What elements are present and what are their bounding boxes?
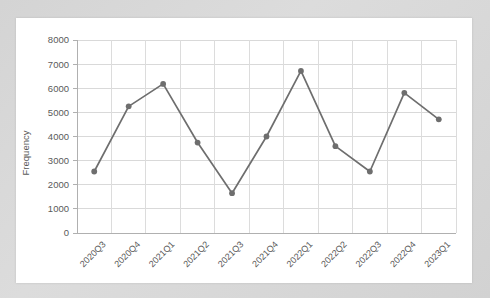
chart-panel: 010002000300040005000600070008000 2020Q3…	[16, 18, 472, 283]
x-tick-label: 2021Q3	[216, 239, 246, 269]
data-point-marker	[436, 116, 442, 122]
x-tick-label: 2020Q3	[78, 239, 108, 269]
x-tick-label: 2023Q1	[422, 239, 452, 269]
data-point-marker	[298, 68, 304, 74]
y-axis-tick-labels: 010002000300040005000600070008000	[48, 34, 69, 238]
y-tick-label: 1000	[48, 203, 69, 214]
x-axis-tick-labels: 2020Q32020Q42021Q12021Q22021Q32021Q42022…	[78, 239, 452, 269]
data-point-marker	[195, 140, 201, 146]
y-tick-label: 0	[64, 227, 69, 238]
x-tick-label: 2022Q2	[319, 239, 349, 269]
x-tick-label: 2022Q1	[285, 239, 315, 269]
y-tick-label: 8000	[48, 34, 69, 45]
y-axis-title: Frequency	[20, 130, 31, 175]
data-point-marker	[264, 134, 270, 140]
data-point-marker	[333, 143, 339, 149]
x-tick-label: 2022Q3	[354, 239, 384, 269]
x-tick-label: 2021Q2	[181, 239, 211, 269]
x-tick-label: 2021Q4	[250, 239, 280, 269]
y-tick-label: 4000	[48, 131, 69, 142]
data-point-marker	[229, 190, 235, 196]
data-point-marker	[401, 90, 407, 96]
data-point-marker	[160, 81, 166, 87]
y-tick-label: 5000	[48, 107, 69, 118]
x-tick-label: 2020Q4	[112, 239, 142, 269]
data-point-marker	[126, 103, 132, 109]
x-tick-label: 2022Q4	[388, 239, 418, 269]
screenshot-background: 010002000300040005000600070008000 2020Q3…	[0, 0, 490, 298]
y-tick-label: 3000	[48, 155, 69, 166]
line-chart: 010002000300040005000600070008000 2020Q3…	[16, 18, 472, 283]
data-series-frequency	[91, 68, 441, 196]
x-tick-label: 2021Q1	[147, 239, 177, 269]
y-tick-label: 2000	[48, 179, 69, 190]
data-point-marker	[91, 169, 97, 175]
y-tick-label: 6000	[48, 83, 69, 94]
data-point-marker	[367, 169, 373, 175]
y-tick-label: 7000	[48, 59, 69, 70]
